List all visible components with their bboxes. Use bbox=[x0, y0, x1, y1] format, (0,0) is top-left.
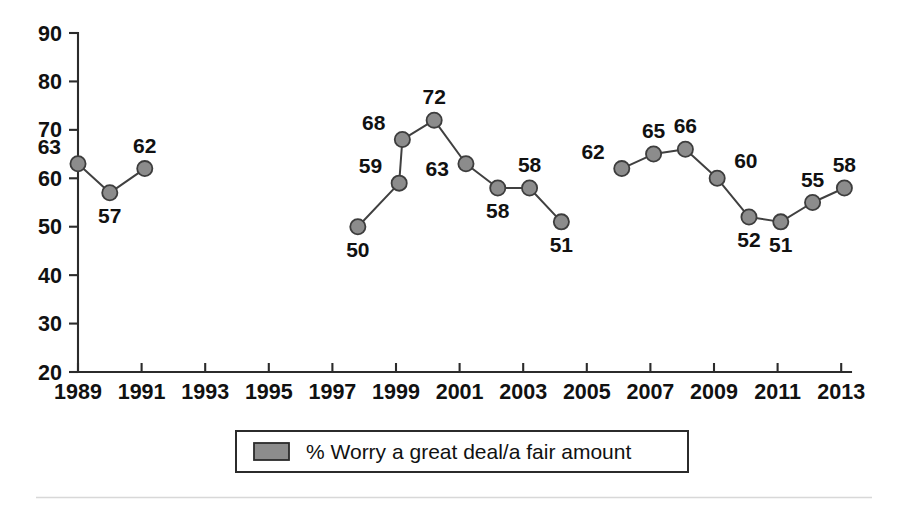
data-point-value-label: 72 bbox=[422, 85, 445, 108]
data-point-marker bbox=[710, 171, 725, 186]
data-point-marker bbox=[646, 146, 661, 161]
data-point-value-label: 63 bbox=[426, 157, 449, 180]
data-point-value-label: 58 bbox=[518, 153, 542, 176]
x-axis-tick-label: 2007 bbox=[626, 380, 674, 404]
data-point-marker bbox=[392, 176, 407, 191]
data-point-value-label: 52 bbox=[737, 228, 760, 251]
y-axis-tick-label: 40 bbox=[38, 264, 62, 288]
x-axis-tick-label: 1993 bbox=[181, 380, 229, 404]
data-point-marker bbox=[427, 113, 442, 128]
data-point-value-label: 66 bbox=[674, 114, 697, 137]
x-axis-tick-label: 2001 bbox=[436, 380, 484, 404]
data-point-value-label: 50 bbox=[346, 238, 369, 261]
y-axis-tick-label: 90 bbox=[38, 22, 62, 46]
data-point-value-label: 55 bbox=[801, 168, 825, 191]
y-axis-tick-label: 30 bbox=[38, 312, 62, 336]
x-axis-tick-label: 1999 bbox=[372, 380, 420, 404]
chart-stage: 9080706050403020 19891991199319951997199… bbox=[0, 0, 898, 508]
data-point-value-label: 51 bbox=[769, 233, 793, 256]
x-axis-tick-label: 1991 bbox=[118, 380, 166, 404]
data-point-marker bbox=[741, 209, 756, 224]
chart-page: 9080706050403020 19891991199319951997199… bbox=[0, 0, 898, 508]
x-axis-tick-label: 2005 bbox=[563, 380, 611, 404]
line-chart: 9080706050403020 19891991199319951997199… bbox=[0, 0, 898, 508]
x-axis-tick-label: 1995 bbox=[245, 380, 293, 404]
y-axis-tick-label: 80 bbox=[38, 70, 62, 94]
data-point-marker bbox=[458, 156, 473, 171]
y-axis-tick-label: 60 bbox=[38, 167, 62, 191]
data-point-value-label: 62 bbox=[581, 140, 604, 163]
data-point-marker bbox=[395, 132, 410, 147]
legend-label-worry: % Worry a great deal/a fair amount bbox=[306, 440, 631, 463]
data-point-marker bbox=[678, 142, 693, 157]
data-point-marker bbox=[614, 161, 629, 176]
data-point-marker bbox=[137, 161, 152, 176]
data-point-value-label: 65 bbox=[642, 119, 666, 142]
data-point-marker bbox=[350, 219, 365, 234]
data-point-value-label: 63 bbox=[38, 135, 61, 158]
x-axis-tick-label: 2003 bbox=[499, 380, 547, 404]
x-axis-tick-label: 1989 bbox=[54, 380, 102, 404]
x-axis-tick-label: 1997 bbox=[308, 380, 356, 404]
x-axis-tick-label: 2013 bbox=[817, 380, 865, 404]
data-point-value-label: 60 bbox=[734, 149, 757, 172]
data-point-marker bbox=[490, 180, 505, 195]
y-axis-tick-label: 50 bbox=[38, 215, 62, 239]
data-point-value-label: 58 bbox=[833, 153, 857, 176]
x-axis-tick-label: 2011 bbox=[754, 380, 801, 404]
legend-swatch-worry bbox=[254, 443, 289, 460]
data-point-marker bbox=[522, 180, 537, 195]
x-axis-tick-label: 2009 bbox=[690, 380, 738, 404]
data-point-marker bbox=[70, 156, 85, 171]
data-point-value-label: 68 bbox=[362, 111, 386, 134]
data-point-value-label: 62 bbox=[133, 134, 156, 157]
data-point-marker bbox=[102, 185, 117, 200]
data-point-marker bbox=[554, 214, 569, 229]
data-point-marker bbox=[805, 195, 820, 210]
data-point-value-label: 57 bbox=[98, 204, 121, 227]
data-point-value-label: 58 bbox=[486, 199, 510, 222]
chart-legend: % Worry a great deal/a fair amount bbox=[236, 431, 688, 472]
data-point-value-label: 59 bbox=[359, 154, 382, 177]
data-point-marker bbox=[837, 180, 852, 195]
data-point-value-label: 51 bbox=[550, 233, 574, 256]
data-point-marker bbox=[773, 214, 788, 229]
